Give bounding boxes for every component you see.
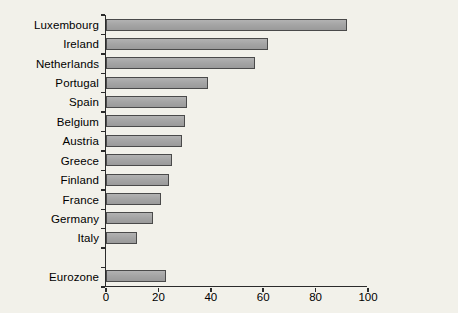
bar-row bbox=[106, 92, 367, 111]
y-tick bbox=[101, 189, 105, 191]
category-label-greece: Greece bbox=[0, 151, 99, 170]
category-label-netherlands: Netherlands bbox=[0, 54, 99, 73]
y-tick bbox=[101, 170, 105, 172]
y-tick bbox=[101, 34, 105, 36]
y-tick bbox=[101, 209, 105, 211]
bar-portugal bbox=[106, 77, 208, 89]
y-tick bbox=[101, 14, 105, 16]
bar-ireland bbox=[106, 38, 268, 50]
bar-austria bbox=[106, 135, 182, 147]
bar-chart: LuxembourgIrelandNetherlandsPortugalSpai… bbox=[0, 0, 458, 313]
category-label-empty bbox=[0, 248, 99, 267]
bar-finland bbox=[106, 174, 169, 186]
y-tick bbox=[101, 228, 105, 230]
bar-row bbox=[106, 112, 367, 131]
category-label-austria: Austria bbox=[0, 132, 99, 151]
bar-row bbox=[106, 151, 367, 170]
category-label-portugal: Portugal bbox=[0, 73, 99, 92]
bar-row bbox=[106, 247, 367, 266]
category-label-germany: Germany bbox=[0, 209, 99, 228]
bar-netherlands bbox=[106, 57, 255, 69]
bar-germany bbox=[106, 212, 153, 224]
bar-spain bbox=[106, 96, 187, 108]
bar-france bbox=[106, 193, 161, 205]
y-tick bbox=[101, 286, 105, 288]
y-tick bbox=[101, 73, 105, 75]
category-label-france: France bbox=[0, 190, 99, 209]
category-label-ireland: Ireland bbox=[0, 34, 99, 53]
y-tick bbox=[101, 150, 105, 152]
bar-row bbox=[106, 189, 367, 208]
y-tick bbox=[101, 131, 105, 133]
bar-row bbox=[106, 15, 367, 34]
category-label-belgium: Belgium bbox=[0, 112, 99, 131]
bar-row bbox=[106, 267, 367, 286]
bar-row bbox=[106, 54, 367, 73]
x-tick-label-40: 40 bbox=[204, 291, 217, 303]
plot-rows bbox=[106, 15, 367, 286]
y-tick bbox=[101, 111, 105, 113]
bar-row bbox=[106, 34, 367, 53]
x-tick-label-60: 60 bbox=[257, 291, 270, 303]
bar-belgium bbox=[106, 115, 185, 127]
category-label-luxembourg: Luxembourg bbox=[0, 15, 99, 34]
category-label-eurozone: Eurozone bbox=[0, 267, 99, 286]
y-tick bbox=[101, 53, 105, 55]
x-tick-label-80: 80 bbox=[309, 291, 322, 303]
plot-area: 020406080100 bbox=[105, 15, 367, 287]
x-tick-label-0: 0 bbox=[103, 291, 109, 303]
bar-row bbox=[106, 131, 367, 150]
bar-luxembourg bbox=[106, 19, 347, 31]
bar-row bbox=[106, 228, 367, 247]
x-tick-label-20: 20 bbox=[152, 291, 165, 303]
category-label-italy: Italy bbox=[0, 229, 99, 248]
category-labels: LuxembourgIrelandNetherlandsPortugalSpai… bbox=[0, 15, 99, 287]
x-tick-label-100: 100 bbox=[358, 291, 377, 303]
bar-row bbox=[106, 73, 367, 92]
y-tick bbox=[101, 267, 105, 269]
bar-italy bbox=[106, 232, 137, 244]
bar-row bbox=[106, 170, 367, 189]
y-tick bbox=[101, 247, 105, 249]
bar-eurozone bbox=[106, 270, 166, 282]
category-label-spain: Spain bbox=[0, 93, 99, 112]
y-tick bbox=[101, 92, 105, 94]
category-label-finland: Finland bbox=[0, 170, 99, 189]
bar-row bbox=[106, 209, 367, 228]
bar-greece bbox=[106, 154, 172, 166]
